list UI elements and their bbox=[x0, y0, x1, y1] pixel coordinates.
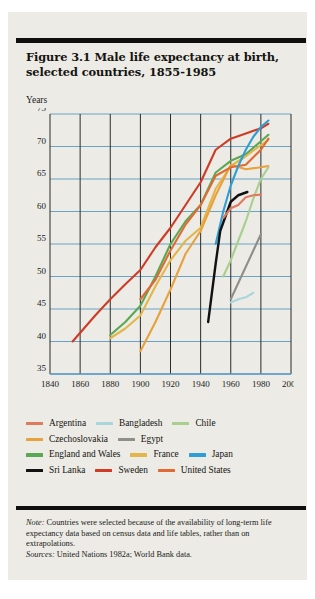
legend-item-england-and-wales[interactable]: England and Wales bbox=[26, 450, 120, 459]
legend-swatch-icon bbox=[26, 438, 43, 441]
legend-item-czechoslovakia[interactable]: Czechoslovakia bbox=[26, 435, 108, 444]
legend-swatch-icon bbox=[172, 422, 189, 425]
legend-label: Egypt bbox=[141, 435, 163, 444]
x-tick-label: 1980 bbox=[252, 379, 271, 389]
legend-item-egypt[interactable]: Egypt bbox=[118, 435, 163, 444]
x-tick-label: 1920 bbox=[162, 379, 181, 389]
legend-item-bangladesh[interactable]: Bangladesh bbox=[96, 419, 162, 428]
line-chart-svg: 3540455055606570751840186018801900192019… bbox=[26, 108, 294, 408]
note-label: Note: bbox=[26, 518, 44, 527]
legend-swatch-icon bbox=[118, 438, 135, 441]
x-tick-label: 2000 bbox=[282, 379, 294, 389]
x-tick-label: 1940 bbox=[192, 379, 211, 389]
legend-swatch-icon bbox=[130, 453, 147, 456]
figure-notes: Note: Countries were selected because of… bbox=[26, 518, 294, 560]
legend-label: United States bbox=[181, 466, 231, 475]
legend-row: CzechoslovakiaEgypt bbox=[26, 432, 298, 448]
y-tick-label: 65 bbox=[37, 168, 47, 178]
y-tick-label: 50 bbox=[37, 266, 47, 276]
top-rule bbox=[16, 38, 306, 43]
figure-title: Figure 3.1 Male life expectancy at birth… bbox=[26, 50, 296, 80]
sources-text: United Nations 1982a; World Bank data. bbox=[57, 550, 192, 559]
legend-item-argentina[interactable]: Argentina bbox=[26, 419, 86, 428]
legend-label: Sri Lanka bbox=[49, 466, 85, 475]
legend-label: Czechoslovakia bbox=[49, 435, 108, 444]
note-text: Countries were selected because of the a… bbox=[26, 518, 272, 548]
y-tick-label: 45 bbox=[37, 298, 47, 308]
y-tick-label: 55 bbox=[37, 233, 47, 243]
y-tick-label: 60 bbox=[37, 201, 47, 211]
legend-swatch-icon bbox=[26, 422, 43, 425]
legend-label: Bangladesh bbox=[119, 419, 162, 428]
legend-item-sri-lanka[interactable]: Sri Lanka bbox=[26, 466, 85, 475]
legend-swatch-icon bbox=[158, 469, 175, 472]
chart-plot-area: 3540455055606570751840186018801900192019… bbox=[26, 108, 294, 408]
legend-label: Chile bbox=[195, 419, 215, 428]
figure-card: Figure 3.1 Male life expectancy at birth… bbox=[8, 12, 307, 580]
legend-swatch-icon bbox=[189, 453, 206, 456]
mid-rule bbox=[16, 506, 306, 510]
legend-swatch-icon bbox=[95, 469, 112, 472]
legend-label: France bbox=[153, 450, 178, 459]
legend-item-france[interactable]: France bbox=[130, 450, 178, 459]
legend-swatch-icon bbox=[96, 422, 113, 425]
y-axis-unit-label: Years bbox=[26, 95, 47, 105]
x-tick-label: 1880 bbox=[101, 379, 120, 389]
legend-row: Sri LankaSwedenUnited States bbox=[26, 463, 298, 479]
legend-item-united-states[interactable]: United States bbox=[158, 466, 231, 475]
legend-item-sweden[interactable]: Sweden bbox=[95, 466, 147, 475]
sources-paragraph: Sources: United Nations 1982a; World Ban… bbox=[26, 550, 294, 561]
y-tick-label: 35 bbox=[37, 363, 47, 373]
x-tick-label: 1860 bbox=[71, 379, 90, 389]
x-tick-label: 1840 bbox=[41, 379, 60, 389]
y-tick-label: 70 bbox=[37, 136, 47, 146]
legend-swatch-icon bbox=[26, 469, 43, 472]
legend-swatch-icon bbox=[26, 453, 43, 456]
legend-label: Japan bbox=[212, 450, 233, 459]
legend-row: England and WalesFranceJapan bbox=[26, 447, 298, 463]
x-tick-label: 1900 bbox=[131, 379, 150, 389]
y-tick-label: 40 bbox=[37, 331, 47, 341]
chart-legend: ArgentinaBangladeshChileCzechoslovakiaEg… bbox=[26, 416, 298, 478]
note-paragraph: Note: Countries were selected because of… bbox=[26, 518, 294, 550]
legend-label: Argentina bbox=[49, 419, 86, 428]
legend-row: ArgentinaBangladeshChile bbox=[26, 416, 298, 432]
x-tick-label: 1960 bbox=[222, 379, 241, 389]
y-tick-label: 75 bbox=[37, 108, 47, 113]
legend-label: Sweden bbox=[118, 466, 147, 475]
legend-item-japan[interactable]: Japan bbox=[189, 450, 233, 459]
sources-label: Sources: bbox=[26, 550, 55, 559]
legend-label: England and Wales bbox=[49, 450, 120, 459]
legend-item-chile[interactable]: Chile bbox=[172, 419, 215, 428]
